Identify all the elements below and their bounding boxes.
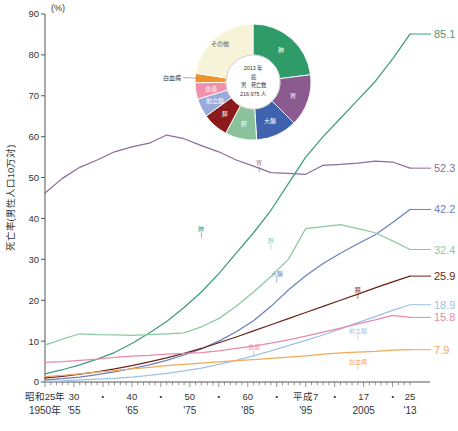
series-label-肺: 肺 — [198, 226, 204, 233]
x-tick-label-era: 30 — [69, 391, 80, 402]
pie-slice-label-白血病: 白血病 — [163, 74, 181, 82]
series-line-胃 — [45, 135, 410, 193]
y-tick-label: 60 — [28, 131, 39, 142]
series-line-前立腺 — [45, 305, 410, 381]
pie-slice-label-膵: 膵 — [222, 110, 228, 118]
pie-slice-label-その他: その他 — [211, 40, 229, 48]
x-tick-label-western: '65 — [125, 405, 138, 416]
end-value-食道: 15.8 — [434, 311, 455, 323]
end-value-膵: 25.9 — [434, 270, 455, 282]
x-tick-label-era: 25 — [405, 391, 416, 402]
x-tick-label-western: '95 — [299, 405, 312, 416]
y-tick-label: 80 — [28, 49, 39, 60]
y-axis-unit: (%) — [51, 3, 65, 13]
pie-center-line-3: 216,975 人 — [240, 91, 267, 97]
end-value-大腸: 42.2 — [434, 203, 455, 215]
x-tick-label-era: 60 — [242, 391, 253, 402]
cancer-mortality-chart: (%)0102030405060708090死亡率(男性人口10万対)昭和25年… — [0, 0, 458, 431]
chart-page: (%)0102030405060708090死亡率(男性人口10万対)昭和25年… — [0, 0, 458, 431]
series-label-胃: 胃 — [256, 160, 262, 167]
end-value-胃: 52.3 — [434, 162, 455, 174]
series-line-食道 — [45, 315, 410, 362]
pie-center-line-2: 男 死亡数 — [241, 81, 267, 89]
x-tick-label-era: ・ — [98, 391, 108, 402]
end-value-肺: 85.1 — [434, 28, 455, 40]
y-tick-label: 40 — [28, 213, 39, 224]
end-value-肝: 32.4 — [434, 244, 455, 256]
series-label-白血病: 白血病 — [349, 358, 367, 366]
pie-center-line-0: 2013 年 — [244, 64, 263, 72]
pie-chart: 肺胃大腸肝膵前立腺食道白血病その他2013 年癌男 死亡数216,975 人 — [163, 24, 311, 140]
end-value-前立腺: 18.9 — [434, 299, 455, 311]
y-tick-label: 70 — [28, 90, 39, 101]
x-tick-label-western: 2005 — [353, 405, 376, 416]
y-tick-label: 30 — [28, 254, 39, 265]
x-tick-label-era: ・ — [214, 391, 224, 402]
x-tick-label-era: ・ — [330, 391, 340, 402]
x-tick-label-western: '75 — [183, 405, 196, 416]
x-tick-label-western: '85 — [241, 405, 254, 416]
x-tick-label-era: 昭和25年 — [25, 391, 66, 402]
x-tick-label-era: 17 — [358, 391, 369, 402]
y-tick-label: 0 — [34, 376, 39, 387]
pie-slice-label-前立腺: 前立腺 — [206, 97, 224, 105]
x-tick-label-western: 1950年 — [29, 404, 61, 416]
x-tick-label-era: ・ — [272, 391, 282, 402]
y-axis-title: 死亡率(男性人口10万対) — [5, 145, 16, 252]
x-tick-label-western: '13 — [403, 405, 416, 416]
x-tick-label-era: 40 — [127, 391, 138, 402]
pie-slice-label-大腸: 大腸 — [264, 117, 276, 125]
y-tick-label: 50 — [28, 172, 39, 183]
series-label-膵: 膵 — [355, 286, 361, 294]
pie-slice-label-肝: 肝 — [241, 121, 247, 128]
y-tick-label: 90 — [28, 8, 39, 19]
y-tick-label: 20 — [28, 295, 39, 306]
pie-slice-label-肺: 肺 — [278, 47, 284, 54]
y-tick-label: 10 — [28, 336, 39, 347]
end-value-白血病: 7.9 — [434, 344, 449, 356]
series-label-肝: 肝 — [268, 238, 274, 245]
pie-slice-label-胃: 胃 — [290, 93, 296, 100]
x-tick-label-era: 50 — [185, 391, 196, 402]
x-tick-label-era: 平成7 — [293, 391, 318, 402]
series-label-食道: 食道 — [248, 343, 260, 351]
x-tick-label-era: ・ — [388, 391, 398, 402]
x-tick-label-western: '55 — [67, 405, 80, 416]
pie-slice-label-食道: 食道 — [205, 85, 217, 93]
series-label-前立腺: 前立腺 — [349, 327, 367, 335]
x-tick-label-era: ・ — [156, 391, 166, 402]
